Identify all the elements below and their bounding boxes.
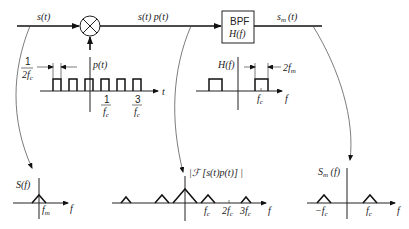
sampling-modulation-diagram: s(t) s(t) p(t) BPF H(f) sm(t) p(t) t 1: [0, 0, 409, 229]
svg-text:f: f: [268, 205, 272, 216]
svg-text:3: 3: [135, 94, 141, 105]
arrow-to-product-spectrum: [175, 26, 191, 172]
svg-text:fc: fc: [134, 106, 141, 119]
svg-text:fc: fc: [103, 106, 110, 119]
arrow-to-output-spectrum: [313, 26, 351, 160]
svg-text:f: f: [70, 203, 74, 214]
svg-text:2fc: 2fc: [22, 69, 34, 82]
pulse-waveform: [53, 79, 141, 91]
svg-text:1: 1: [104, 94, 110, 105]
output-spectrum-plot: Sm (f) −fc fc f: [307, 166, 401, 219]
svg-text:3fc: 3fc: [239, 205, 252, 218]
output-signal-label: sm(t): [277, 11, 298, 24]
svg-text:2fc: 2fc: [222, 205, 234, 218]
svg-text:fm: fm: [42, 204, 50, 217]
input-spectrum-label: S(f): [16, 179, 31, 191]
svg-text:−fc: −fc: [315, 205, 329, 218]
bpf-label: BPF: [230, 16, 249, 27]
svg-text:fc: fc: [366, 205, 373, 218]
svg-text:fc: fc: [204, 205, 211, 218]
pulse-train-label: p(t): [92, 59, 108, 71]
arrow-to-input-spectrum: [16, 26, 32, 168]
svg-text:fc: fc: [257, 93, 264, 106]
time-axis-label: t: [162, 86, 165, 97]
bpf-transfer-label: H(f): [228, 28, 246, 40]
product-spectrum-label: |ℱ [s(t)p(t)] |: [189, 167, 243, 179]
input-signal-label: s(t): [37, 11, 51, 23]
product-spectrum-plot: |ℱ [s(t)p(t)] | fc 2fc 3fc f: [112, 167, 272, 221]
svg-text:1: 1: [25, 56, 31, 67]
svg-text:2fm: 2fm: [283, 62, 296, 75]
signal-chain: s(t) s(t) p(t) BPF H(f) sm(t): [17, 11, 322, 50]
filter-response-plot: H(f) 2fm fc f: [196, 57, 296, 110]
svg-text:f: f: [285, 93, 289, 104]
pulse-train-plot: p(t) t 1 2fc 1 fc 3 fc: [21, 56, 165, 119]
mixer: [80, 16, 100, 36]
output-spectrum-label: Sm (f): [318, 166, 341, 179]
svg-text:f: f: [397, 205, 401, 216]
bpf-block: BPF H(f): [222, 11, 254, 43]
input-spectrum-plot: S(f) fm f: [13, 178, 74, 219]
filter-response-label: H(f): [217, 59, 235, 71]
product-signal-label: s(t) p(t): [138, 11, 169, 23]
